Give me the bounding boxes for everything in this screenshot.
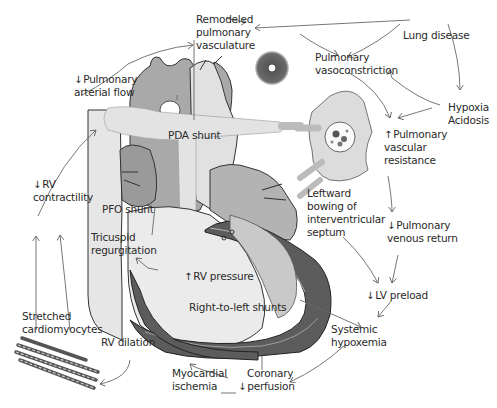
label-rv-contractility: ↓RV contractility (33, 178, 93, 204)
label-pulmonary-venous-return: ↓Pulmonary venous return (387, 219, 458, 245)
label-pda-shunt: PDA shunt (168, 129, 221, 142)
label-rv-pressure: ↑RV pressure (184, 270, 254, 283)
heart-illustration (0, 0, 497, 408)
label-systemic-hypoxemia: Systemic hypoxemia (331, 323, 387, 349)
label-lv-preload: ↓LV preload (366, 289, 428, 302)
down-arrow-icon: ↓ (33, 179, 41, 190)
label-myocardial-ischemia: Myocardial ischemia (172, 367, 227, 393)
down-arrow-icon: ↓ (74, 74, 82, 85)
label-tricuspid-regurgitation: Tricuspid regurgitation (91, 231, 157, 257)
right-atrium (120, 145, 157, 207)
label-pulmonary-vascular-resistance: ↑Pulmonary vascular resistance (384, 128, 447, 167)
superior-vena-cava (88, 110, 122, 340)
label-lung-disease: Lung disease (403, 29, 469, 42)
lung-tissue (298, 91, 372, 181)
down-arrow-icon: ↓ (366, 290, 374, 301)
label-remodeled-vasculature: Remodeled pulmonary vasculature (196, 13, 255, 52)
down-arrow-icon: ↓ (238, 381, 246, 392)
arteriole-cross-section (255, 51, 289, 85)
label-rv-dilation: RV dilation (101, 336, 155, 349)
label-stretched-cardiomyocytes: Stretched cardiomyocytes (22, 310, 102, 336)
label-coronary-perfusion: Coronary ↓perfusion (238, 367, 295, 393)
label-pulmonary-arterial-flow: ↓Pulmonary arterial flow (74, 73, 137, 99)
down-arrow-icon: ↓ (387, 220, 395, 231)
label-pfo-shunt: PFO shunt (102, 203, 154, 216)
label-hypoxia-acidosis: Hypoxia Acidosis (448, 101, 489, 127)
diagram-canvas: Remodeled pulmonary vasculature Lung dis… (0, 0, 497, 408)
stretched-cardiomyocytes-illustration (16, 338, 98, 388)
label-pulmonary-vasoconstriction: Pulmonary vasoconstriction (315, 51, 398, 77)
up-arrow-icon: ↑ (384, 129, 392, 140)
up-arrow-icon: ↑ (184, 271, 192, 282)
label-right-to-left-shunts: Right-to-left shunts (189, 301, 286, 314)
label-leftward-bowing: Leftward bowing of interventricular sept… (307, 187, 385, 239)
